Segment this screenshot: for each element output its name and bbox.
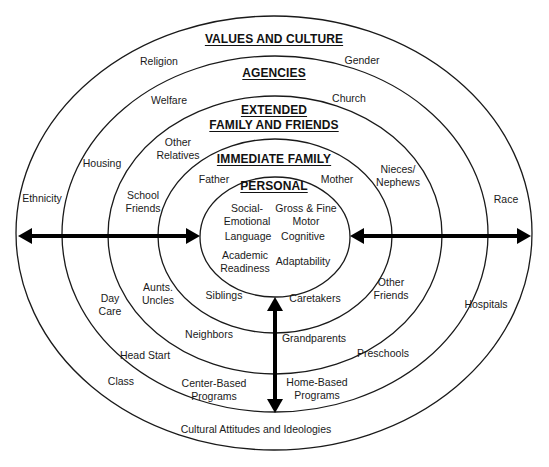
motor-line-2: Motor <box>275 215 336 228</box>
school-friends-line-2: Friends <box>125 202 160 215</box>
social-line-1: Social- <box>224 202 271 215</box>
label-preschools: Preschools <box>357 347 409 360</box>
extended-title-line-1: EXTENDED <box>209 103 338 118</box>
other-friends-line-1: Other <box>373 276 408 289</box>
label-adaptability: Adaptability <box>276 255 330 268</box>
home-based-line-1: Home-Based <box>286 376 347 389</box>
bottom-double-arrow <box>267 297 283 413</box>
home-based-line-2: Programs <box>286 389 347 402</box>
agencies-title: AGENCIES <box>242 66 305 81</box>
aunts-line-1: Aunts. <box>142 281 174 294</box>
label-aunts-uncles: Aunts. Uncles <box>142 281 174 306</box>
nieces-line-1: Nieces/ <box>376 163 420 176</box>
label-grandparents: Grandparents <box>282 332 346 345</box>
values-culture-title: VALUES AND CULTURE <box>205 32 343 47</box>
extended-title-line-2: FAMILY AND FRIENDS <box>209 118 338 133</box>
label-father: Father <box>199 173 229 186</box>
label-hospitals: Hospitals <box>464 298 507 311</box>
label-center-based-programs: Center-Based Programs <box>182 377 247 402</box>
right-double-arrow <box>350 228 531 244</box>
label-mother: Mother <box>321 173 354 186</box>
label-church: Church <box>332 92 366 105</box>
school-friends-line-1: School <box>125 189 160 202</box>
label-nieces-nephews: Nieces/ Nephews <box>376 163 420 188</box>
label-housing: Housing <box>83 157 122 170</box>
nieces-line-2: Nephews <box>376 176 420 189</box>
academic-line-1: Academic <box>220 249 270 262</box>
label-home-based-programs: Home-Based Programs <box>286 376 347 401</box>
label-class: Class <box>108 375 134 388</box>
day-care-line-2: Care <box>99 305 122 318</box>
label-cultural-attitudes: Cultural Attitudes and Ideologies <box>181 423 332 436</box>
label-ethnicity: Ethnicity <box>22 192 62 205</box>
label-religion: Religion <box>140 55 178 68</box>
label-school-friends: School Friends <box>125 189 160 214</box>
day-care-line-1: Day <box>99 292 122 305</box>
label-academic-readiness: Academic Readiness <box>220 249 270 274</box>
left-double-arrow <box>18 228 200 244</box>
extended-family-title: EXTENDED FAMILY AND FRIENDS <box>209 103 338 132</box>
other-relatives-line-1: Other <box>156 136 199 149</box>
label-gross-fine-motor: Gross & Fine Motor <box>275 202 336 227</box>
label-welfare: Welfare <box>151 94 187 107</box>
label-social-emotional: Social- Emotional <box>224 202 271 227</box>
label-siblings: Siblings <box>206 289 243 302</box>
aunts-line-2: Uncles <box>142 294 174 307</box>
label-caretakers: Caretakers <box>289 292 340 305</box>
label-neighbors: Neighbors <box>185 328 233 341</box>
label-language: Language <box>225 230 272 243</box>
personal-title: PERSONAL <box>240 179 307 194</box>
label-other-friends: Other Friends <box>373 276 408 301</box>
label-cognitive: Cognitive <box>281 230 325 243</box>
motor-line-1: Gross & Fine <box>275 202 336 215</box>
academic-line-2: Readiness <box>220 262 270 275</box>
label-race: Race <box>494 193 519 206</box>
other-relatives-line-2: Relatives <box>156 149 199 162</box>
center-based-line-1: Center-Based <box>182 377 247 390</box>
label-other-relatives: Other Relatives <box>156 136 199 161</box>
other-friends-line-2: Friends <box>373 289 408 302</box>
label-head-start: Head Start <box>120 349 170 362</box>
ring-personal <box>200 177 350 297</box>
center-based-line-2: Programs <box>182 390 247 403</box>
immediate-family-title: IMMEDIATE FAMILY <box>217 152 331 167</box>
label-gender: Gender <box>344 54 379 67</box>
label-day-care: Day Care <box>99 292 122 317</box>
social-line-2: Emotional <box>224 215 271 228</box>
